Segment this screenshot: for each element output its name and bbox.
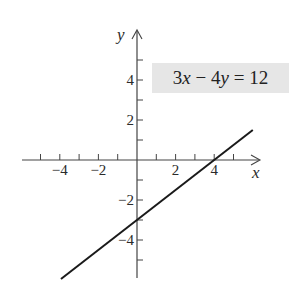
y-axis-label: y <box>115 25 125 44</box>
y-tick-label: −2 <box>118 192 134 208</box>
eq-coef-x: 3 <box>173 67 183 89</box>
x-tick-label: 2 <box>172 162 180 178</box>
y-tick-label: 2 <box>127 112 135 128</box>
equation-annotation: 3x − 4y = 12 <box>152 63 289 93</box>
eq-rhs: = 12 <box>229 67 268 89</box>
eq-var-x: x <box>182 67 190 89</box>
eq-coef-y: − 4 <box>191 67 221 89</box>
coordinate-plane: −4−22442−2−4 x y <box>0 0 294 304</box>
y-tick-label: 4 <box>127 72 135 88</box>
x-tick-label: 4 <box>210 162 218 178</box>
x-tick-label: −4 <box>52 162 68 178</box>
eq-var-y: y <box>221 67 229 89</box>
x-axis-label: x <box>251 163 260 182</box>
series <box>61 130 253 279</box>
y-tick-label: −4 <box>118 232 134 248</box>
data-line <box>61 130 253 279</box>
x-tick-label: −2 <box>90 162 106 178</box>
